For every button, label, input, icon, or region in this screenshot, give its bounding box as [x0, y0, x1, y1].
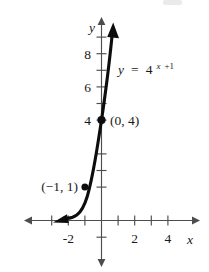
point-marker-0-4: [97, 116, 105, 124]
point-marker--1-1: [81, 184, 88, 191]
graph-canvas: -2 2 4 8 6 4 x y (0, 4) (−1, 1) y = 4 x …: [0, 0, 209, 272]
x-tick-label--2: -2: [63, 231, 74, 246]
curve-equation-label: y = 4 x +1: [116, 55, 174, 77]
point-label-0-4: (0, 4): [110, 113, 139, 128]
equation-lhs: y: [116, 62, 124, 77]
equation-equals: =: [131, 62, 139, 77]
equation-exponent-rest: +1: [164, 61, 174, 71]
y-tick-label-8: 8: [84, 47, 91, 62]
point-label--1-1: (−1, 1): [41, 179, 78, 194]
x-tick-label-4: 4: [165, 231, 172, 246]
scan-artifact: [163, 0, 182, 5]
y-tick-label-6: 6: [84, 80, 91, 95]
y-axis-bottom-arrow-icon: [98, 259, 106, 267]
equation-base: 4: [146, 62, 153, 77]
x-axis-label: x: [186, 232, 193, 247]
equation-exponent-var: x: [155, 61, 160, 71]
y-axis-label: y: [87, 20, 95, 35]
curve-up-arrow-icon: [107, 23, 119, 39]
x-tick-label-2: 2: [131, 231, 138, 246]
y-axis-top-arrow-icon: [98, 17, 106, 25]
x-axis-left-arrow-icon: [24, 217, 32, 225]
y-tick-label-4: 4: [84, 113, 91, 128]
equation-text: y = 4 x +1: [116, 55, 174, 77]
axes-group: [24, 17, 200, 267]
curve-down-arrow-icon: [53, 214, 69, 223]
exponential-function-graph-figure: -2 2 4 8 6 4 x y (0, 4) (−1, 1) y = 4 x …: [0, 0, 209, 272]
x-axis-right-arrow-icon: [192, 217, 200, 225]
